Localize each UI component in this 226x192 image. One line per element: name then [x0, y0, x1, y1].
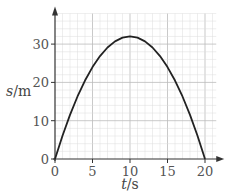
- x-tick-label: 20: [197, 164, 214, 179]
- x-tick-label: 0: [51, 164, 59, 179]
- y-axis-arrow-icon: [52, 6, 58, 15]
- x-axis-arrow-icon: [216, 156, 224, 162]
- y-tick-label: 30: [32, 37, 49, 52]
- x-tick-label: 15: [159, 164, 176, 179]
- ticks: 051015200102030: [32, 37, 213, 179]
- y-axis-label-var: s: [6, 83, 13, 99]
- y-tick-label: 10: [32, 114, 49, 129]
- y-axis-label: s/m: [6, 83, 31, 99]
- y-tick-label: 20: [32, 75, 49, 90]
- y-tick-label: 0: [41, 152, 49, 167]
- y-axis-label-unit: m: [18, 83, 31, 99]
- x-tick-label: 5: [88, 164, 96, 179]
- x-axis-label-unit: s: [132, 176, 139, 192]
- grid: [55, 13, 216, 159]
- chart: 051015200102030 s/m t/s: [0, 0, 226, 192]
- x-axis-label: t/s: [121, 176, 139, 192]
